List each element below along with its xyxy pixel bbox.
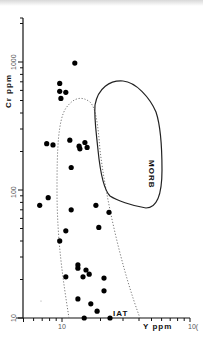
data-point (67, 138, 72, 143)
data-point (57, 238, 62, 243)
data-point (37, 203, 42, 208)
data-point (46, 195, 51, 200)
data-point (87, 272, 92, 277)
data-point (69, 207, 74, 212)
data-point (101, 288, 106, 293)
sample-points (37, 61, 113, 321)
data-point (63, 90, 68, 95)
morb-label: MORB (147, 160, 156, 188)
data-point (63, 274, 68, 279)
data-point (93, 203, 98, 208)
data-point (88, 301, 93, 306)
data-point (50, 142, 55, 147)
data-point (57, 81, 62, 86)
data-point (72, 61, 77, 66)
data-point (85, 145, 90, 150)
x-tick-label-10: 10 (58, 323, 66, 330)
data-point (106, 210, 111, 215)
y-tick-label-1000: 1000 (10, 54, 17, 70)
data-point (82, 315, 87, 320)
data-point (80, 274, 85, 279)
y-axis-ticks (18, 18, 23, 318)
data-point (82, 140, 87, 145)
data-point (83, 267, 88, 272)
data-point (96, 225, 101, 230)
data-point (69, 165, 74, 170)
data-point (95, 309, 100, 314)
data-point (58, 96, 63, 101)
data-point (57, 89, 62, 94)
data-point (75, 266, 80, 271)
x-axis-title: Y ppm (143, 322, 172, 331)
cr-vs-y-scatter-plot: 10 100 1000 10 10( Cr ppm Y ppm MORB IAT (0, 0, 203, 342)
y-axis-title: Cr ppm (4, 74, 13, 108)
data-point (77, 146, 82, 151)
iat-label: IAT (113, 309, 128, 318)
y-tick-label-100: 100 (10, 186, 17, 198)
y-tick-label-10: 10 (10, 314, 17, 322)
data-point (63, 228, 68, 233)
data-point (107, 315, 112, 320)
data-point (101, 276, 106, 281)
data-point (75, 296, 80, 301)
stray-mark (40, 300, 41, 301)
morb-field-boundary (95, 81, 162, 208)
data-point (44, 141, 49, 146)
x-tick-label-100: 10( (188, 323, 199, 331)
